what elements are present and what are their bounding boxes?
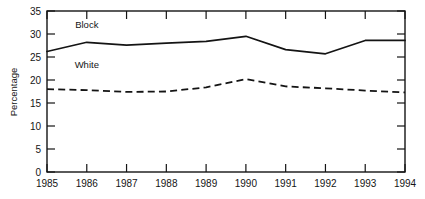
x-tick-label: 1992 <box>314 178 337 189</box>
x-tick-label: 1988 <box>155 178 178 189</box>
x-tick-label: 1993 <box>354 178 377 189</box>
y-tick-label: 20 <box>30 75 42 86</box>
x-tick-label: 1987 <box>115 178 138 189</box>
series-line-block <box>47 36 405 53</box>
line-chart: 05101520253035 1985198619871988198919901… <box>0 0 425 199</box>
series-label-white: White <box>75 59 99 70</box>
x-axis-ticks <box>47 11 405 172</box>
y-tick-label: 0 <box>35 167 41 178</box>
x-axis-tick-labels: 1985198619871988198919901991199219931994 <box>36 178 417 189</box>
y-tick-label: 5 <box>35 144 41 155</box>
x-tick-label: 1989 <box>195 178 218 189</box>
y-axis-ticks <box>47 11 405 172</box>
y-tick-label: 25 <box>30 52 42 63</box>
series-label-block: Block <box>75 19 98 30</box>
y-tick-label: 15 <box>30 98 42 109</box>
x-tick-label: 1986 <box>76 178 99 189</box>
data-series <box>47 36 405 92</box>
y-axis-label-text: Percentage <box>8 68 19 117</box>
series-line-white <box>47 79 405 92</box>
plot-frame <box>47 11 405 172</box>
x-tick-label: 1985 <box>36 178 59 189</box>
y-tick-label: 10 <box>30 121 42 132</box>
x-tick-label: 1994 <box>394 178 417 189</box>
y-tick-label: 30 <box>30 29 42 40</box>
x-tick-label: 1990 <box>235 178 258 189</box>
chart-container: 05101520253035 1985198619871988198919901… <box>0 0 425 199</box>
x-tick-label: 1991 <box>275 178 298 189</box>
y-axis-label: Percentage <box>8 68 19 117</box>
y-tick-label: 35 <box>30 6 42 17</box>
y-axis-tick-labels: 05101520253035 <box>30 6 42 178</box>
